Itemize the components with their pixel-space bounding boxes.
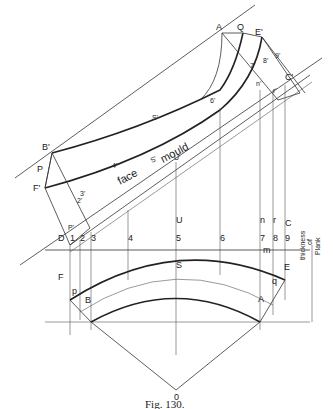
label-7-prime: 7' bbox=[250, 62, 255, 69]
label-F: F bbox=[58, 272, 64, 282]
label-1: 1 bbox=[70, 233, 75, 243]
label-U: U bbox=[176, 215, 183, 225]
label-3-prime: 3' bbox=[80, 190, 85, 197]
label-s-prime: S' bbox=[149, 155, 158, 164]
label-P-prime: P' bbox=[68, 224, 74, 231]
label-r-prime: r' bbox=[273, 87, 277, 94]
label-9-prime: 9' bbox=[275, 52, 280, 59]
label-D: D bbox=[58, 233, 65, 243]
label-E-prime: E' bbox=[255, 27, 263, 37]
label-n-prime: n' bbox=[256, 80, 261, 87]
label-4-prime: 4' bbox=[112, 162, 117, 169]
label-n: n bbox=[260, 215, 265, 225]
geometry-drawing: A Q E' C' B' P F' 4' U' 6' 7' 8' 9' n' r… bbox=[0, 0, 333, 409]
label-3: 3 bbox=[91, 233, 96, 243]
label-5: 5 bbox=[176, 233, 181, 243]
label-B-prime: B' bbox=[42, 142, 50, 152]
label-A-top: A bbox=[216, 22, 222, 32]
label-q: q bbox=[272, 276, 277, 286]
label-6-prime: 6' bbox=[210, 97, 215, 104]
label-C-prime: C' bbox=[285, 72, 293, 82]
label-m: m bbox=[263, 245, 271, 255]
label-plank: Plank bbox=[314, 237, 321, 255]
label-2: 2 bbox=[80, 233, 85, 243]
label-S: S bbox=[176, 260, 182, 270]
label-4: 4 bbox=[128, 233, 133, 243]
label-of: of bbox=[306, 239, 313, 245]
label-P: P bbox=[37, 164, 43, 174]
label-2-prime: 2' bbox=[77, 197, 82, 204]
label-Q: Q bbox=[237, 22, 244, 32]
label-C: C bbox=[285, 218, 292, 228]
label-9: 9 bbox=[285, 233, 290, 243]
label-p: p bbox=[72, 286, 77, 296]
label-E: E bbox=[284, 262, 290, 272]
label-8: 8 bbox=[273, 233, 278, 243]
label-s-prime-top: S' bbox=[152, 114, 158, 121]
label-6: 6 bbox=[220, 233, 225, 243]
label-F-prime: F' bbox=[33, 183, 40, 193]
label-thickness: thickness bbox=[299, 230, 306, 260]
label-face: face bbox=[115, 166, 139, 186]
label-7: 7 bbox=[260, 233, 265, 243]
label-B: B bbox=[85, 295, 91, 305]
figure-caption: Fig. 130. bbox=[145, 398, 185, 409]
label-r: r bbox=[273, 215, 276, 225]
label-8-prime: 8' bbox=[263, 57, 268, 64]
label-A: A bbox=[258, 294, 264, 304]
